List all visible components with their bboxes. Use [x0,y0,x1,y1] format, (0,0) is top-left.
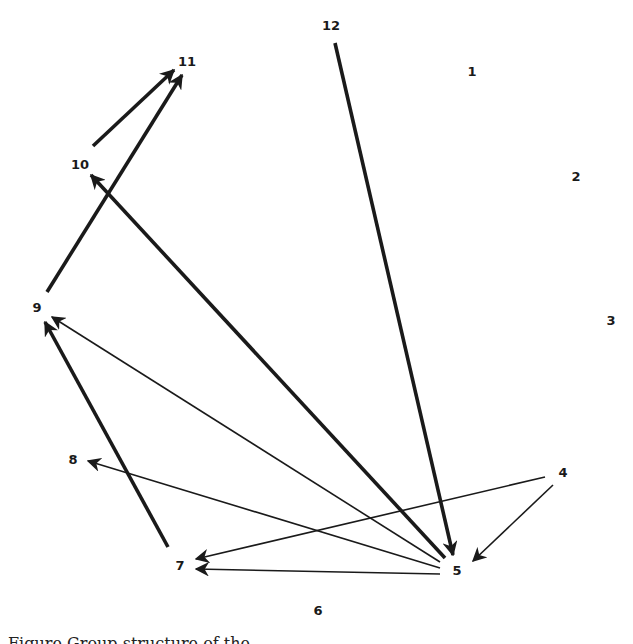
edge-4-to-5 [473,485,553,561]
edge-12-to-5 [335,43,453,555]
node-5: 5 [452,563,461,578]
node-2: 2 [571,169,580,184]
directed-graph-diagram: 123456789101112 [0,0,633,630]
node-8: 8 [68,452,77,467]
node-3: 3 [606,313,615,328]
node-7: 7 [175,558,184,573]
node-layer: 123456789101112 [32,18,615,618]
figure-caption: Figure Group structure of the ... [8,632,633,644]
node-10: 10 [71,157,89,172]
node-12: 12 [322,18,340,33]
node-4: 4 [558,465,567,480]
node-11: 11 [178,54,196,69]
edge-layer [45,43,553,574]
node-6: 6 [313,603,322,618]
node-1: 1 [467,64,476,79]
edge-5-to-7 [196,569,440,574]
node-9: 9 [32,300,41,315]
edge-7-to-9 [45,322,168,547]
edge-9-to-11 [47,75,182,292]
